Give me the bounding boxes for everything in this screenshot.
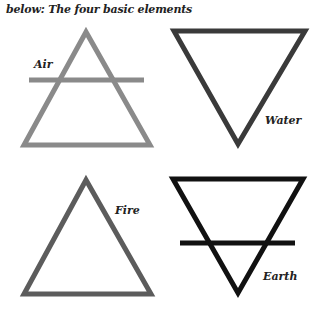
label-water: Water bbox=[265, 114, 301, 127]
label-earth: Earth bbox=[263, 270, 297, 283]
label-air: Air bbox=[34, 58, 53, 71]
water-symbol-icon bbox=[174, 31, 305, 144]
elements-diagram bbox=[0, 0, 322, 316]
fire-symbol-icon bbox=[24, 180, 151, 294]
label-fire: Fire bbox=[115, 204, 140, 217]
air-symbol-icon bbox=[24, 32, 150, 145]
